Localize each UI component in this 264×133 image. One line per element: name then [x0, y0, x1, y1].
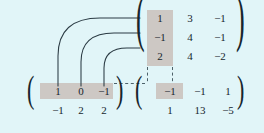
right-factor-cell-1-0: −1 — [145, 30, 175, 44]
right-factor-cell-0-1: 3 — [175, 11, 205, 25]
matrix-diagram-figure: ( ) 1 3 −1 −1 4 −1 2 4 −2 ( ) 1 0 −1 −1 … — [0, 0, 264, 133]
product-cell-0-0: −1 — [155, 84, 185, 98]
right-factor-open-paren: ( — [136, 0, 145, 51]
product-cell-1-0: 1 — [155, 103, 185, 117]
product-cell-1-1: 13 — [185, 103, 215, 117]
right-factor-cell-0-2: −1 — [205, 11, 235, 25]
product-cell-1-2: −5 — [213, 103, 243, 117]
right-factor-cell-2-2: −2 — [205, 49, 235, 63]
right-factor-cell-1-1: 4 — [175, 30, 205, 44]
right-factor-cell-2-0: 2 — [145, 49, 175, 63]
arc-pair-1 — [58, 18, 140, 86]
product-cell-0-2: 1 — [213, 84, 243, 98]
left-factor-open-paren: ( — [27, 71, 34, 110]
product-open-paren: ( — [135, 71, 142, 110]
left-factor-cell-1-2: 2 — [89, 103, 119, 117]
right-factor-cell-1-2: −1 — [205, 30, 235, 44]
arc-pair-2 — [81, 33, 140, 86]
product-cell-0-1: −1 — [185, 84, 215, 98]
right-factor-close-paren: ) — [236, 0, 245, 51]
right-factor-cell-0-0: 1 — [145, 11, 175, 25]
left-factor-cell-0-2: −1 — [89, 84, 119, 98]
right-factor-cell-2-1: 4 — [175, 49, 205, 63]
